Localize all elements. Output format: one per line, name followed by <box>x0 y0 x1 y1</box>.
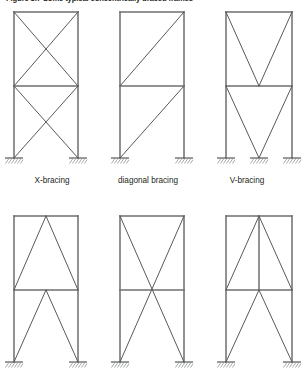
fixed-support-hatched-icon <box>69 158 87 164</box>
brace-lower-left <box>226 86 259 158</box>
label-x-bracing: X-bracing <box>6 176 98 186</box>
brace-upper <box>120 12 184 86</box>
frame-diagonal-bracing <box>111 12 193 164</box>
braced-frames-diagram <box>0 0 302 378</box>
brace-lower-left <box>226 290 259 362</box>
fixed-support-hatched-icon <box>175 362 193 368</box>
fixed-support-hatched-icon <box>5 362 23 368</box>
frame-inverted-v-bracing <box>5 216 87 368</box>
brace-upper-left <box>14 216 46 290</box>
label-v-bracing: V-bracing <box>198 176 296 186</box>
fixed-support-hatched-icon <box>111 158 129 164</box>
brace-upper-left <box>226 12 259 86</box>
brace-lower-right <box>259 290 292 362</box>
fixed-support-hatched-icon <box>217 362 235 368</box>
brace-lower-left <box>14 290 46 362</box>
fixed-support-hatched-icon <box>69 362 87 368</box>
label-diagonal-bracing: diagonal bracing <box>100 176 196 186</box>
fixed-support-hatched-icon <box>175 158 193 164</box>
brace-upper-right <box>259 12 292 86</box>
brace-lower <box>120 86 184 158</box>
fixed-support-hatched-icon <box>111 362 129 368</box>
frame-two-story-x-bracing <box>111 216 193 368</box>
brace-lower-right <box>46 290 78 362</box>
fixed-support-hatched-icon <box>250 158 268 164</box>
frame-x-bracing <box>5 12 87 164</box>
frame-inverted-v-with-center-column <box>217 216 301 368</box>
frame-v-bracing <box>217 12 301 164</box>
brace-lower-right <box>259 86 292 158</box>
fixed-support-hatched-icon <box>217 158 235 164</box>
fixed-support-hatched-icon <box>283 362 301 368</box>
brace-upper-left <box>226 216 259 290</box>
fixed-support-hatched-icon <box>5 158 23 164</box>
brace-upper-right <box>46 216 78 290</box>
brace-upper-right <box>259 216 292 290</box>
figure-container: Figure 3.7 Some typical concentrically b… <box>0 0 302 378</box>
fixed-support-hatched-icon <box>283 158 301 164</box>
